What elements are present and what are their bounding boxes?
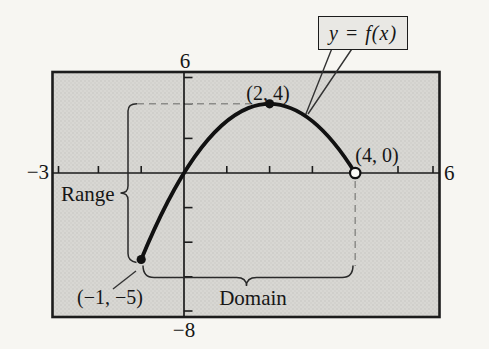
point-open-endpoint [350,168,360,178]
equation-callout-box: y = f(x) [318,16,408,50]
x-axis-min-label: −3 [18,161,49,183]
point-closed-endpoint [137,255,146,264]
point-max-label: (2, 4) [228,83,308,104]
point-closed-label: (−1, −5) [58,287,162,308]
y-axis-max-label: 6 [174,50,196,72]
figure: y = f(x) 6 −8 −3 6 (2, 4) (4, 0) (−1, −5… [0,0,489,349]
x-axis-max-label: 6 [444,162,455,184]
domain-label: Domain [203,287,303,309]
equation-label: y = f(x) [329,22,397,45]
range-label: Range [61,183,115,205]
y-axis-min-label: −8 [164,319,204,341]
point-open-label: (4, 0) [337,145,417,166]
